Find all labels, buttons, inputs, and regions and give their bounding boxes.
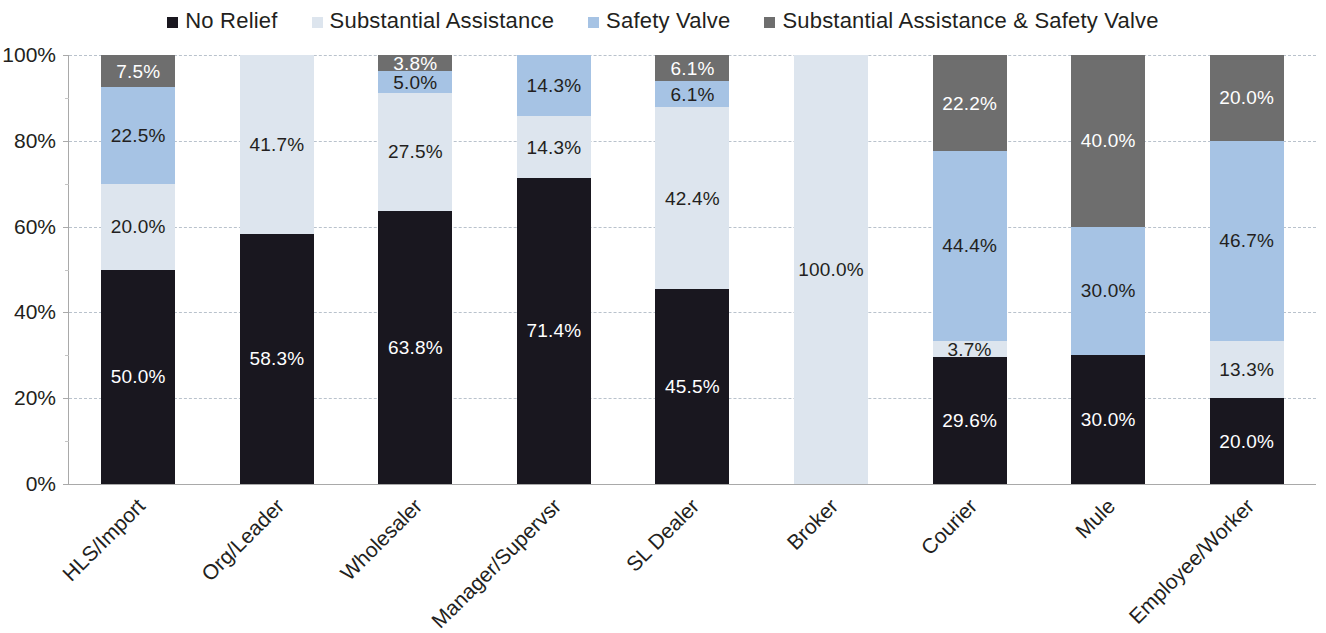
bar-segment[interactable]: 63.8% — [378, 211, 452, 484]
bar-segment[interactable]: 14.3% — [517, 116, 591, 177]
chart-legend: No ReliefSubstantial AssistanceSafety Va… — [0, 4, 1326, 38]
legend-item[interactable]: No Relief — [167, 8, 277, 34]
bar-segment[interactable]: 46.7% — [1210, 141, 1284, 341]
bar-segment[interactable]: 13.3% — [1210, 341, 1284, 398]
legend-item-label: Substantial Assistance & Safety Valve — [782, 8, 1158, 34]
bar-segment[interactable]: 7.5% — [101, 55, 175, 87]
stacked-bar[interactable]: 30.0%30.0%40.0% — [1071, 55, 1145, 484]
bar-segment[interactable]: 5.0% — [378, 71, 452, 92]
bar-segment[interactable]: 42.4% — [655, 107, 729, 289]
x-axis-tick-label-text: HLS/Import — [58, 494, 150, 586]
bar-segment[interactable]: 41.7% — [240, 55, 314, 234]
bar-segment-value-label: 41.7% — [249, 135, 304, 154]
bar-segment-value-label: 42.4% — [665, 189, 720, 208]
x-axis-label-slot: Broker — [761, 486, 900, 613]
bar-segment-value-label: 63.8% — [388, 338, 443, 357]
bar-segment-value-label: 71.4% — [526, 321, 581, 340]
bar-segment-value-label: 6.1% — [670, 59, 714, 78]
bar-segment[interactable]: 6.1% — [655, 81, 729, 107]
bar-slot: 71.4%14.3%14.3% — [485, 55, 624, 484]
square-swatch-icon — [167, 17, 178, 28]
bar-segment-value-label: 50.0% — [111, 367, 166, 386]
bar-segment[interactable]: 3.8% — [378, 55, 452, 71]
x-axis-tick-label-text: Wholesaler — [336, 494, 427, 585]
bar-segment-value-label: 100.0% — [798, 260, 864, 279]
stacked-bar[interactable]: 50.0%20.0%22.5%7.5% — [101, 55, 175, 484]
legend-item[interactable]: Substantial Assistance — [312, 8, 555, 34]
bar-segment[interactable]: 50.0% — [101, 270, 175, 485]
stacked-bar[interactable]: 100.0% — [794, 55, 868, 484]
bar-segment[interactable]: 3.7% — [933, 341, 1007, 357]
legend-item[interactable]: Safety Valve — [588, 8, 730, 34]
plot-area: 50.0%20.0%22.5%7.5%58.3%41.7%63.8%27.5%5… — [68, 55, 1316, 485]
bar-segment-value-label: 6.1% — [670, 85, 714, 104]
bar-segment[interactable]: 14.3% — [517, 55, 591, 116]
stacked-bar[interactable]: 63.8%27.5%5.0%3.8% — [378, 55, 452, 484]
stacked-bar[interactable]: 20.0%13.3%46.7%20.0% — [1210, 55, 1284, 484]
y-axis-tick-label: 80% — [14, 129, 56, 153]
bar-slot: 29.6%3.7%44.4%22.2% — [900, 55, 1039, 484]
x-axis-tick-label-text: Courier — [916, 494, 982, 560]
legend-item-label: Substantial Assistance — [330, 8, 555, 34]
chart-container: 0%20%40%60%80%100% 50.0%20.0%22.5%7.5%58… — [0, 40, 1326, 613]
square-swatch-icon — [588, 17, 599, 28]
bar-segment[interactable]: 100.0% — [794, 55, 868, 484]
bar-segment[interactable]: 71.4% — [517, 178, 591, 484]
bar-segment[interactable]: 30.0% — [1071, 227, 1145, 356]
x-axis-label-slot: Manager/Supervsr — [484, 486, 623, 613]
y-axis-tick-label: 0% — [26, 472, 56, 496]
bar-segment-value-label: 29.6% — [942, 411, 997, 430]
bar-segment-value-label: 30.0% — [1081, 281, 1136, 300]
y-axis-tick-label: 60% — [14, 215, 56, 239]
bar-segment-value-label: 14.3% — [526, 138, 581, 157]
x-axis-label-slot: Org/Leader — [207, 486, 346, 613]
x-axis-label-slot: Employee/Worker — [1176, 486, 1315, 613]
y-axis-tick-label: 20% — [14, 386, 56, 410]
bar-segment-value-label: 44.4% — [942, 236, 997, 255]
legend-item-label: No Relief — [185, 8, 277, 34]
bar-segment[interactable]: 27.5% — [378, 93, 452, 211]
bar-segment-value-label: 20.0% — [1219, 432, 1274, 451]
bar-segment[interactable]: 22.5% — [101, 87, 175, 184]
y-axis-tick-label: 100% — [2, 43, 56, 67]
bar-segment-value-label: 58.3% — [249, 349, 304, 368]
bar-segment-value-label: 5.0% — [393, 73, 437, 92]
stacked-bar[interactable]: 71.4%14.3%14.3% — [517, 55, 591, 484]
square-swatch-icon — [312, 17, 323, 28]
bar-series-group: 50.0%20.0%22.5%7.5%58.3%41.7%63.8%27.5%5… — [69, 55, 1316, 484]
bar-segment[interactable]: 20.0% — [101, 184, 175, 270]
bar-slot: 100.0% — [762, 55, 901, 484]
x-axis-label-slot: HLS/Import — [68, 486, 207, 613]
bar-segment[interactable]: 58.3% — [240, 234, 314, 484]
bar-segment-value-label: 20.0% — [1219, 88, 1274, 107]
bar-segment[interactable]: 44.4% — [933, 151, 1007, 341]
bar-segment-value-label: 7.5% — [116, 62, 160, 81]
bar-segment-value-label: 22.5% — [111, 126, 166, 145]
stacked-bar[interactable]: 45.5%42.4%6.1%6.1% — [655, 55, 729, 484]
bar-segment[interactable]: 22.2% — [933, 55, 1007, 150]
x-axis-labels: HLS/ImportOrg/LeaderWholesalerManager/Su… — [68, 486, 1315, 613]
x-axis-tick-label-text: Broker — [782, 494, 843, 555]
bar-segment-value-label: 46.7% — [1219, 231, 1274, 250]
stacked-bar[interactable]: 58.3%41.7% — [240, 55, 314, 484]
bar-segment[interactable]: 6.1% — [655, 55, 729, 81]
square-swatch-icon — [764, 17, 775, 28]
bar-slot: 58.3%41.7% — [208, 55, 347, 484]
bar-segment-value-label: 14.3% — [526, 76, 581, 95]
bar-segment-value-label: 27.5% — [388, 142, 443, 161]
y-axis-labels: 0%20%40%60%80%100% — [0, 40, 62, 484]
y-axis-tick-mark — [63, 484, 69, 485]
legend-item[interactable]: Substantial Assistance & Safety Valve — [764, 8, 1158, 34]
bar-segment[interactable]: 40.0% — [1071, 55, 1145, 227]
legend-item-label: Safety Valve — [606, 8, 730, 34]
bar-segment[interactable]: 20.0% — [1210, 55, 1284, 141]
x-axis-label-slot: SL Dealer — [622, 486, 761, 613]
x-axis-tick-label-text: Org/Leader — [197, 494, 289, 586]
stacked-bar[interactable]: 29.6%3.7%44.4%22.2% — [933, 55, 1007, 484]
bar-segment-value-label: 30.0% — [1081, 410, 1136, 429]
bar-segment-value-label: 20.0% — [111, 217, 166, 236]
bar-slot: 30.0%30.0%40.0% — [1039, 55, 1178, 484]
bar-slot: 63.8%27.5%5.0%3.8% — [346, 55, 485, 484]
x-axis-label-slot: Courier — [899, 486, 1038, 613]
x-axis-tick-label-text: SL Dealer — [622, 494, 704, 576]
